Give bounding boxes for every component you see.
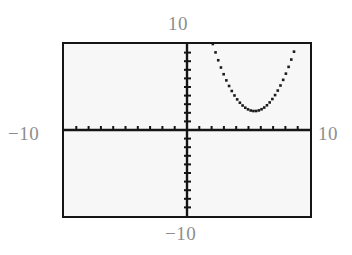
x-max-label: 10: [318, 124, 338, 143]
graph-viewport[interactable]: [62, 42, 312, 218]
function-curve: [212, 44, 296, 112]
graph-canvas: [64, 44, 310, 216]
calculator-graph-screenshot: 10 −10 10 −10: [0, 0, 352, 255]
x-min-label: −10: [8, 124, 39, 143]
y-max-label: 10: [168, 14, 188, 33]
y-min-label: −10: [165, 224, 196, 243]
